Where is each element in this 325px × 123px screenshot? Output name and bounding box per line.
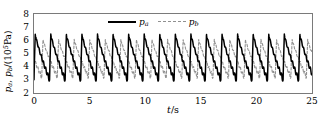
legend-key-solid-icon (108, 18, 136, 26)
y-axis-label: pa, pb/(105Pa) (0, 0, 16, 123)
y-axis-label-text: pa, pb/(105Pa) (2, 31, 14, 93)
legend-label-pb: pb (189, 17, 199, 28)
y-tick-label: 6 (15, 36, 29, 45)
y-tick-label: 7 (15, 23, 29, 32)
series-p_a (34, 34, 312, 81)
legend-entry-pa: pa (108, 17, 149, 28)
y-tick-label: 3 (15, 75, 29, 84)
legend-entry-pb: pb (158, 17, 199, 28)
legend-label-pa: pa (139, 17, 149, 28)
x-tick-label: 15 (191, 97, 211, 106)
x-tick-label: 0 (24, 97, 44, 106)
legend: pa pb (108, 15, 199, 29)
series-p_b (34, 39, 312, 78)
x-tick-label: 25 (302, 97, 322, 106)
x-tick-label: 5 (80, 97, 100, 106)
x-tick-label: 10 (135, 97, 155, 106)
y-tick-label: 4 (15, 62, 29, 71)
y-tick-label: 8 (15, 10, 29, 19)
legend-key-dashed-icon (158, 18, 186, 26)
figure-container: pa, pb/(105Pa) t/s pa pb 234567805101520… (0, 0, 325, 123)
x-axis-label: t/s (33, 104, 313, 115)
y-tick-label: 5 (15, 49, 29, 58)
x-tick-label: 20 (246, 97, 266, 106)
